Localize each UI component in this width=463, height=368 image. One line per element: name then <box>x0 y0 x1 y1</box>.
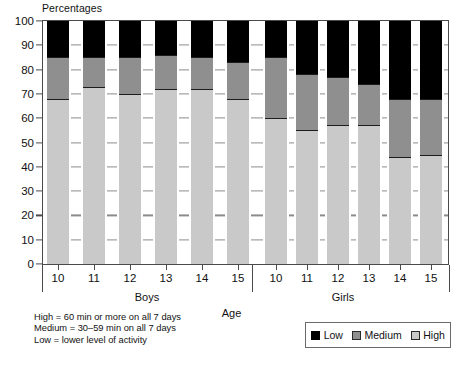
grid-dash <box>444 118 448 119</box>
grid-dash <box>444 93 448 94</box>
legend-item-low[interactable]: Low <box>311 329 343 341</box>
grid-dash <box>413 239 418 240</box>
legend-swatch-low-icon <box>311 331 320 340</box>
bar-segment-low <box>358 21 380 84</box>
grid-dash <box>251 166 263 167</box>
bar-segment-low <box>265 21 287 57</box>
grid-dash <box>179 215 189 216</box>
bar-segment-medium <box>119 57 141 93</box>
grid-dash <box>382 142 387 143</box>
grid-dash <box>382 191 387 192</box>
grid-dash <box>351 93 356 94</box>
grid-dash <box>289 118 294 119</box>
bar-segment-low <box>191 21 213 57</box>
grid-dash <box>320 142 325 143</box>
footnote-line-high: High = 60 min or more on all 7 days <box>34 312 181 323</box>
bar-segment-low <box>155 21 177 55</box>
bar-segment-medium <box>296 74 318 130</box>
grid-dash <box>107 69 117 70</box>
grid-dash <box>143 239 153 240</box>
stacked-bar[interactable] <box>227 21 249 264</box>
bar-segment-medium <box>47 57 69 98</box>
grid-dash <box>107 239 117 240</box>
stacked-bar[interactable] <box>327 21 349 264</box>
x-axis-tick-mark <box>369 265 370 270</box>
grid-dash <box>444 166 448 167</box>
y-axis-tick-mark <box>36 45 43 46</box>
grid-dash <box>444 215 448 216</box>
bar-segment-low <box>389 21 411 99</box>
grid-dash <box>215 118 225 119</box>
grid-dash <box>215 215 225 216</box>
y-axis-tick-mark <box>36 142 43 143</box>
grid-dash <box>215 166 225 167</box>
stacked-bar[interactable] <box>119 21 141 264</box>
stacked-bar[interactable] <box>155 21 177 264</box>
legend-label-high: High <box>423 329 445 341</box>
grid-dash <box>351 69 356 70</box>
grid-dash <box>179 191 189 192</box>
grid-dash <box>413 93 418 94</box>
legend: Low Medium High <box>305 322 451 348</box>
chart-page: Percentages 1009080706050403020100 10111… <box>0 0 463 368</box>
grid-dash <box>71 166 81 167</box>
legend-item-medium[interactable]: Medium <box>352 329 402 341</box>
stacked-bar[interactable] <box>389 21 411 264</box>
grid-dash <box>107 215 117 216</box>
y-axis-tick-mark <box>36 215 43 216</box>
stacked-bar[interactable] <box>296 21 318 264</box>
grid-dash <box>107 142 117 143</box>
grid-dash <box>413 45 418 46</box>
grid-dash <box>351 45 356 46</box>
x-axis-tick-label: 10 <box>259 272 293 284</box>
stacked-bar[interactable] <box>47 21 69 264</box>
stacked-bar[interactable] <box>358 21 380 264</box>
grid-dash <box>251 142 263 143</box>
grid-dash <box>143 45 153 46</box>
grid-dash <box>215 191 225 192</box>
group-label-boys: Boys <box>87 291 207 303</box>
grid-dash <box>143 166 153 167</box>
y-axis-tick-mark <box>36 20 43 21</box>
grid-dash <box>143 215 153 216</box>
x-axis-tick-label: 11 <box>77 272 111 284</box>
grid-dash <box>251 239 263 240</box>
grid-dash <box>143 191 153 192</box>
stacked-bar[interactable] <box>420 21 442 264</box>
grid-dash <box>320 215 325 216</box>
grid-dash <box>71 118 81 119</box>
y-axis-tick-label: 40 <box>4 161 34 173</box>
x-axis-tick-mark <box>130 265 131 270</box>
grid-dash <box>351 142 356 143</box>
bar-segment-high <box>327 125 349 264</box>
stacked-bar[interactable] <box>265 21 287 264</box>
x-axis-tick-label: 14 <box>383 272 417 284</box>
grid-dash <box>215 142 225 143</box>
legend-item-high[interactable]: High <box>411 329 445 341</box>
bar-segment-high <box>47 99 69 264</box>
x-axis-tick-label: 15 <box>414 272 448 284</box>
grid-dash <box>143 142 153 143</box>
bar-segment-high <box>83 87 105 264</box>
bar-segment-high <box>265 118 287 264</box>
bar-segment-medium <box>327 77 349 126</box>
y-axis-tick-label: 100 <box>4 15 34 27</box>
footnote-line-low: Low = lower level of activity <box>34 335 181 346</box>
grid-dash <box>107 166 117 167</box>
grid-dash <box>107 45 117 46</box>
grid-dash <box>444 45 448 46</box>
grid-dash <box>71 142 81 143</box>
grid-dash <box>71 69 81 70</box>
grid-dash <box>71 93 81 94</box>
stacked-bar[interactable] <box>83 21 105 264</box>
grid-dash <box>71 215 81 216</box>
grid-dash <box>382 215 387 216</box>
bar-segment-high <box>119 94 141 264</box>
bar-segment-medium <box>155 55 177 89</box>
stacked-bar[interactable] <box>191 21 213 264</box>
grid-dash <box>444 239 448 240</box>
grid-dash <box>289 215 294 216</box>
group-separator <box>42 265 43 292</box>
bar-segment-medium <box>191 57 213 89</box>
bar-segment-medium <box>227 62 249 98</box>
